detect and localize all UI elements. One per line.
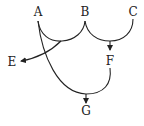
edge-f-to-g-merge xyxy=(86,68,110,94)
node-e: E xyxy=(8,56,17,68)
node-c: C xyxy=(128,6,137,18)
directed-graph-diagram: A B C E F G xyxy=(0,0,144,126)
edge-a-b-merge xyxy=(38,21,85,41)
edge-b-c-merge xyxy=(85,19,133,41)
edge-a-to-g-merge xyxy=(38,21,86,94)
edges-layer xyxy=(0,0,144,126)
node-b: B xyxy=(81,6,90,18)
node-g: G xyxy=(81,105,91,117)
node-a: A xyxy=(34,6,43,18)
node-f: F xyxy=(106,55,114,67)
edge-merge-to-e xyxy=(21,41,61,61)
